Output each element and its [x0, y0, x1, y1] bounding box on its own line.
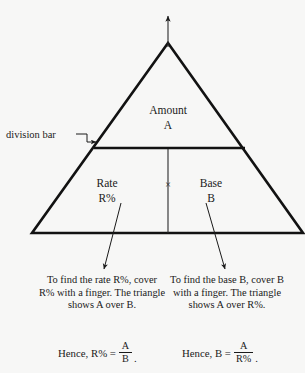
triangle-diagram-graphics [0, 0, 305, 373]
rate-conclusion: Hence, R% = A B . [58, 341, 137, 364]
base-conclusion-period: . [255, 352, 258, 364]
percent-triangle-figure: Amount A Rate R% × Base B division bar T… [0, 0, 305, 373]
base-conclusion: Hence, B = A R% . [182, 341, 258, 364]
base-callout-arrow [206, 203, 225, 269]
base-fraction: A R% [234, 341, 253, 364]
rate-conclusion-period: . [134, 352, 137, 364]
rate-symbol: R% [98, 193, 115, 205]
base-fraction-numerator: A [238, 341, 249, 352]
base-symbol: B [207, 193, 215, 205]
base-fraction-denominator: R% [234, 353, 253, 364]
amount-symbol: A [164, 120, 172, 132]
rate-fraction-denominator: B [120, 353, 131, 364]
rate-fraction: A B [119, 341, 132, 364]
rate-callout-arrow [104, 203, 121, 269]
rate-fraction-numerator: A [120, 341, 131, 352]
division-bar-callout-label: division bar [6, 130, 56, 141]
base-instruction-text: To find the base B, cover B with a finge… [163, 274, 291, 312]
division-bar-leader-line [76, 134, 96, 142]
rate-label: Rate [96, 178, 117, 190]
base-conclusion-lead: Hence, B = [182, 347, 231, 359]
multiplication-operator: × [165, 180, 171, 190]
rate-instruction-text: To find the rate R%, cover R% with a fin… [38, 274, 166, 312]
rate-conclusion-lead: Hence, R% = [58, 347, 116, 359]
base-label: Base [200, 178, 222, 190]
amount-label: Amount [149, 105, 187, 117]
